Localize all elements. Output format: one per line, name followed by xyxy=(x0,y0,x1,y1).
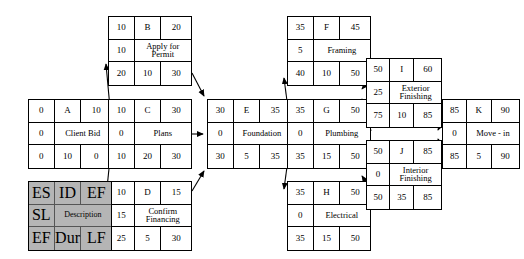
node-d-id: D xyxy=(134,182,162,204)
node-a-ef-bottom: 0 xyxy=(29,145,54,168)
node-d-es: 10 xyxy=(109,182,134,204)
node-f-ef-bottom: 40 xyxy=(288,62,313,85)
node-c-ef-bottom: 10 xyxy=(109,145,134,168)
node-k-es: 85 xyxy=(443,100,466,122)
node-k-dur: 5 xyxy=(466,145,492,168)
node-d-dur: 5 xyxy=(134,227,162,250)
node-g-ef-bottom: 35 xyxy=(288,145,313,168)
node-e-description: Foundation xyxy=(233,123,290,145)
node-i-es: 50 xyxy=(367,59,389,81)
node-c-ef-top: 30 xyxy=(161,100,191,122)
node-e-es: 30 xyxy=(208,100,233,122)
node-d-ef-top: 15 xyxy=(161,182,191,204)
node-i-lf: 85 xyxy=(414,104,441,127)
node-f-es: 35 xyxy=(288,17,313,39)
node-e-id: E xyxy=(233,100,261,122)
activity-node-i: 50I6025Exterior Finishing751085 xyxy=(366,58,442,128)
node-f-dur: 10 xyxy=(313,62,341,85)
node-a-description: Client Bid xyxy=(54,123,111,145)
node-i-ef-bottom: 75 xyxy=(367,104,389,127)
node-i-sl: 25 xyxy=(367,82,389,104)
node-j-sl: 0 xyxy=(367,164,389,186)
node-b-ef-bottom: 20 xyxy=(109,62,134,85)
activity-node-a: 0A100Client Bid0100 xyxy=(28,99,112,169)
node-e-lf: 35 xyxy=(260,145,290,168)
legend-description-label: Description xyxy=(54,205,111,227)
node-h-lf: 50 xyxy=(340,227,370,250)
node-b-ef-top: 20 xyxy=(161,17,191,39)
node-a-es: 0 xyxy=(29,100,54,122)
node-g-sl: 0 xyxy=(288,123,313,145)
node-h-description: Electrical xyxy=(313,205,370,227)
node-a-id: A xyxy=(54,100,82,122)
node-j-lf: 85 xyxy=(414,186,441,209)
node-a-dur: 10 xyxy=(54,145,82,168)
activity-node-f: 35F455Framing401050 xyxy=(287,16,371,86)
node-i-ef-top: 60 xyxy=(414,59,441,81)
network-diagram-canvas: 0A100Client Bid010010B2010Apply for Perm… xyxy=(0,0,524,259)
node-k-ef-bottom: 85 xyxy=(443,145,466,168)
node-d-ef-bottom: 25 xyxy=(109,227,134,250)
node-i-dur: 10 xyxy=(389,104,414,127)
node-k-description: Move - in xyxy=(466,123,519,145)
legend-ef-bottom-label: EF xyxy=(29,227,54,250)
node-b-dur: 10 xyxy=(134,62,162,85)
activity-node-d: 10D1515Confirm Financing25530 xyxy=(108,181,192,251)
node-a-ef-top: 10 xyxy=(81,100,111,122)
node-e-ef-bottom: 30 xyxy=(208,145,233,168)
node-h-dur: 15 xyxy=(313,227,341,250)
node-c-es: 10 xyxy=(109,100,134,122)
legend-sl-label: SL xyxy=(29,205,54,227)
node-i-description: Exterior Finishing xyxy=(389,82,441,104)
node-k-lf: 90 xyxy=(492,145,519,168)
legend-dur-label: Dur xyxy=(54,227,82,250)
node-k-id: K xyxy=(466,100,492,122)
node-d-description: Confirm Financing xyxy=(134,205,191,227)
node-h-ef-bottom: 35 xyxy=(288,227,313,250)
activity-node-g: 35G500Plumbing351550 xyxy=(287,99,371,169)
activity-node-c: 10C300Plans102030 xyxy=(108,99,192,169)
node-b-es: 10 xyxy=(109,17,134,39)
node-c-lf: 30 xyxy=(161,145,191,168)
node-k-sl: 0 xyxy=(443,123,466,145)
node-key-legend: ES ID EF SL Description EF Dur LF xyxy=(28,181,112,251)
node-f-sl: 5 xyxy=(288,40,313,62)
node-j-id: J xyxy=(389,141,414,163)
node-i-id: I xyxy=(389,59,414,81)
node-b-lf: 30 xyxy=(161,62,191,85)
node-j-dur: 35 xyxy=(389,186,414,209)
edge-b-e xyxy=(192,73,204,96)
node-e-sl: 0 xyxy=(208,123,233,145)
node-c-sl: 0 xyxy=(109,123,134,145)
node-f-ef-top: 45 xyxy=(340,17,370,39)
activity-node-j: 50J850Interior Finishing503585 xyxy=(366,140,442,210)
node-d-lf: 30 xyxy=(161,227,191,250)
activity-node-b: 10B2010Apply for Permit201030 xyxy=(108,16,192,86)
node-g-description: Plumbing xyxy=(313,123,370,145)
node-f-description: Framing xyxy=(313,40,370,62)
node-e-dur: 5 xyxy=(233,145,261,168)
node-b-description: Apply for Permit xyxy=(134,40,191,62)
legend-lf-label: LF xyxy=(81,227,111,250)
legend-ef-top-label: EF xyxy=(81,182,111,204)
node-b-sl: 10 xyxy=(109,40,134,62)
node-d-sl: 15 xyxy=(109,205,134,227)
node-e-ef-top: 35 xyxy=(260,100,290,122)
node-h-es: 35 xyxy=(288,182,313,204)
node-c-description: Plans xyxy=(134,123,191,145)
node-c-dur: 20 xyxy=(134,145,162,168)
node-g-es: 35 xyxy=(288,100,313,122)
legend-id-label: ID xyxy=(54,182,82,204)
node-a-sl: 0 xyxy=(29,123,54,145)
activity-node-h: 35H500Electrical351550 xyxy=(287,181,371,251)
node-g-id: G xyxy=(313,100,341,122)
node-c-id: C xyxy=(134,100,162,122)
activity-node-e: 30E350Foundation30535 xyxy=(207,99,291,169)
node-g-dur: 15 xyxy=(313,145,341,168)
node-h-id: H xyxy=(313,182,341,204)
node-j-description: Interior Finishing xyxy=(389,164,441,186)
node-k-ef-top: 90 xyxy=(492,100,519,122)
node-j-ef-bottom: 50 xyxy=(367,186,389,209)
node-f-id: F xyxy=(313,17,341,39)
node-j-ef-top: 85 xyxy=(414,141,441,163)
